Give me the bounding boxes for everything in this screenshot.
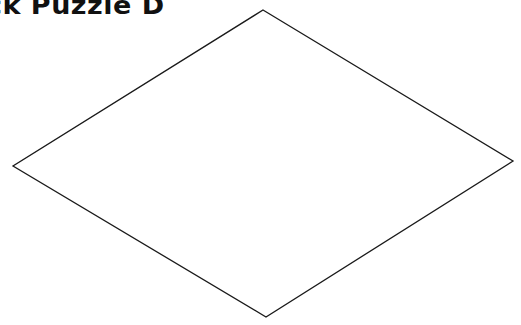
puzzle-diagram: [0, 0, 521, 325]
rhombus-shape: [13, 10, 513, 317]
